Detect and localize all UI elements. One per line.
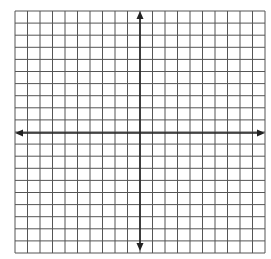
x-axis-left-arrow-icon — [15, 130, 23, 137]
coordinate-grid — [0, 0, 271, 259]
y-axis-down-arrow-icon — [137, 243, 144, 251]
x-axis-right-arrow-icon — [257, 130, 265, 137]
y-axis-up-arrow-icon — [137, 11, 144, 19]
